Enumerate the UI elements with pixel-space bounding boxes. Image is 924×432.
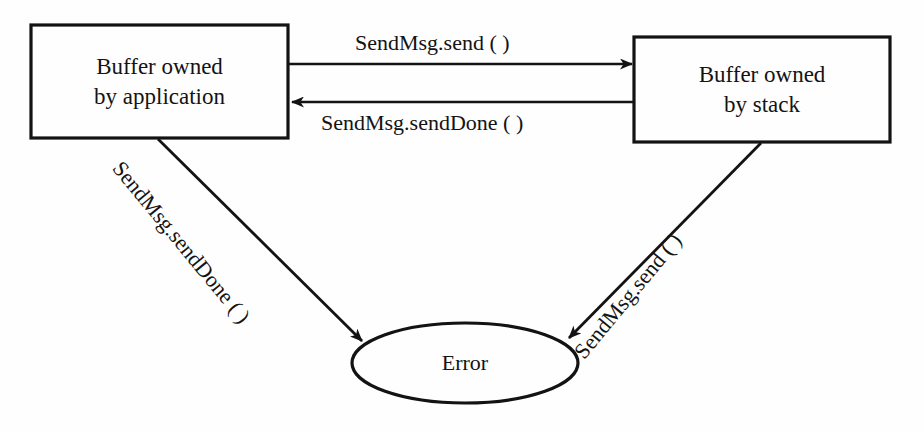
edge-app-to-error-line (158, 139, 362, 341)
diagram-canvas: Buffer owned by application Buffer owned… (0, 0, 924, 432)
node-error-shape (352, 323, 578, 403)
diagram-vector-layer (0, 0, 924, 432)
node-buffer-owned-by-application-shape (31, 25, 288, 138)
edge-stack-to-error-line (569, 143, 761, 338)
node-buffer-owned-by-stack-shape (634, 37, 890, 142)
